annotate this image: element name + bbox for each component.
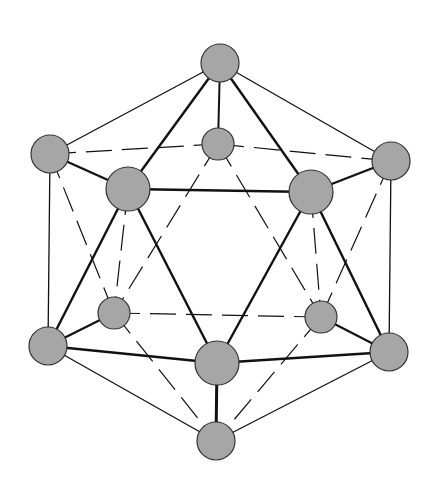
edge-right-upper-right-lower xyxy=(389,161,391,352)
edge-top-left-upper xyxy=(50,63,220,154)
edge-left-upper-left-lower xyxy=(48,154,50,346)
edge-top-right-upper xyxy=(220,63,391,161)
vertex-front-bottom xyxy=(195,341,239,385)
vertex-left-upper xyxy=(31,135,69,173)
edge-back-left-lower-back-right-lower xyxy=(114,313,321,317)
vertex-right-upper xyxy=(372,142,410,180)
edge-front-left-upper-front-right-upper xyxy=(128,189,311,192)
edge-front-left-upper-front-bottom xyxy=(128,189,217,363)
vertex-back-top xyxy=(202,128,234,160)
edge-top-front-left-upper xyxy=(128,63,220,189)
diagram-canvas xyxy=(0,0,432,488)
vertex-left-lower xyxy=(29,327,67,365)
vertex-back-left-lower xyxy=(98,297,130,329)
vertex-back-right-lower xyxy=(305,301,337,333)
edge-right-lower-bottom xyxy=(216,352,389,441)
vertex-front-left-upper xyxy=(106,167,150,211)
vertex-front-right-upper xyxy=(289,170,333,214)
edge-top-front-right-upper xyxy=(220,63,311,192)
edge-back-top-back-right-lower xyxy=(218,144,321,317)
vertex-right-lower xyxy=(370,333,408,371)
edge-left-upper-back-top xyxy=(50,144,218,154)
vertex-bottom xyxy=(197,422,235,460)
icosahedron-diagram xyxy=(0,0,432,488)
vertex-top xyxy=(201,44,239,82)
edge-front-bottom-right-lower xyxy=(217,352,389,363)
